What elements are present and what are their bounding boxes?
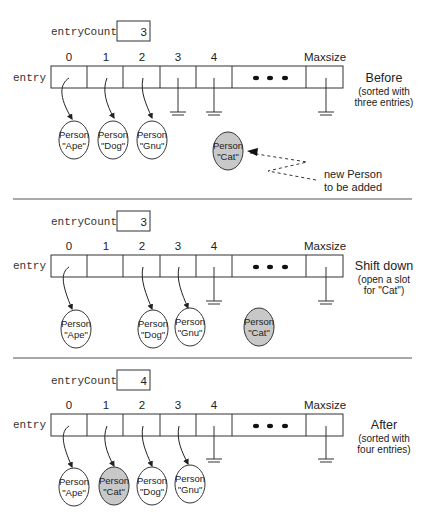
annotation-line1: new Person: [324, 168, 382, 180]
svg-text:Person: Person: [137, 129, 167, 140]
index-labels: 0 1 2 3 4 Maxsize: [66, 240, 346, 252]
svg-text:3: 3: [175, 240, 181, 252]
array-label: entry: [13, 72, 46, 84]
index-labels: 0 1 2 3 4 Maxsize: [66, 399, 346, 411]
svg-text:Person: Person: [59, 476, 89, 487]
maxsize-label: Maxsize: [304, 399, 346, 411]
person-node: Person "Gnu": [175, 465, 205, 503]
maxsize-label: Maxsize: [304, 240, 346, 252]
svg-text:"Dog": "Dog": [140, 486, 164, 497]
caption-line: (sorted with: [358, 433, 410, 444]
entry-count-label: entryCount: [51, 216, 117, 228]
index-label: 0: [66, 51, 72, 63]
person-node: Person "Gnu": [137, 121, 167, 159]
array-label: entry: [13, 260, 46, 272]
caption-line: (sorted with: [358, 86, 410, 97]
svg-text:Person: Person: [59, 129, 89, 140]
svg-text:"Dog": "Dog": [141, 329, 165, 340]
svg-text:2: 2: [139, 399, 145, 411]
caption-title: Before: [366, 71, 403, 85]
svg-text:"Ape": "Ape": [62, 487, 86, 498]
person-node: Person "Dog": [138, 310, 168, 348]
svg-text:Person: Person: [98, 129, 128, 140]
svg-text:0: 0: [66, 399, 72, 411]
section-before: entryCount 3 entry 0 1 2 3 4 Maxsize: [13, 21, 413, 193]
person-node: Person "Ape": [59, 121, 89, 159]
caption-line: four entries): [357, 444, 410, 455]
svg-text:4: 4: [211, 240, 218, 252]
array-cells: [51, 414, 343, 436]
entry-count-label: entryCount: [51, 375, 117, 387]
svg-text:"Gnu": "Gnu": [178, 327, 203, 338]
svg-text:Person: Person: [99, 475, 129, 486]
array-label: entry: [13, 419, 46, 431]
index-label: 2: [139, 51, 145, 63]
section-after: entryCount 4 entry 0 1 2 3 4 Maxsize: [13, 370, 411, 506]
new-person-node: Person "Cat": [99, 467, 129, 505]
svg-text:1: 1: [103, 240, 109, 252]
index-label: 1: [103, 51, 109, 63]
svg-text:3: 3: [175, 399, 181, 411]
svg-text:Person: Person: [244, 316, 274, 327]
svg-text:0: 0: [66, 240, 72, 252]
caption-title: Shift down: [355, 259, 413, 273]
caption-line: three entries): [355, 97, 414, 108]
svg-text:"Cat": "Cat": [217, 151, 239, 162]
svg-text:"Cat": "Cat": [103, 486, 125, 497]
entry-count-label: entryCount: [51, 26, 117, 38]
person-node: Person "Ape": [59, 468, 89, 506]
person-node: Person "Gnu": [175, 308, 205, 346]
annotation-line2: to be added: [324, 181, 382, 193]
section-shift-down: entryCount 3 entry 0 1 2 3 4 Maxsize: [13, 211, 413, 348]
array-cells: [51, 255, 343, 277]
entry-count-value: 4: [141, 375, 148, 387]
dashed-arrow-icon: [247, 148, 316, 180]
svg-text:"Dog": "Dog": [101, 140, 125, 151]
svg-text:4: 4: [211, 399, 218, 411]
person-node: Person "Ape": [61, 310, 91, 348]
svg-text:"Gnu": "Gnu": [140, 140, 165, 151]
entry-count-value: 3: [141, 26, 147, 38]
person-node: Person "Dog": [98, 121, 128, 159]
index-labels: 0 1 2 3 4 Maxsize: [66, 51, 346, 63]
svg-text:"Cat": "Cat": [248, 327, 270, 338]
index-label: 4: [211, 51, 218, 63]
svg-text:"Ape": "Ape": [64, 329, 88, 340]
svg-text:1: 1: [103, 399, 109, 411]
svg-text:Person: Person: [138, 318, 168, 329]
array-cells: [51, 66, 343, 88]
svg-text:"Ape": "Ape": [62, 140, 86, 151]
svg-text:"Gnu": "Gnu": [178, 484, 203, 495]
maxsize-label: Maxsize: [304, 51, 346, 63]
new-person-node: Person "Cat": [213, 132, 243, 170]
sorted-insert-diagram: entryCount 3 entry 0 1 2 3 4 Maxsize: [0, 0, 426, 524]
svg-text:Person: Person: [213, 140, 243, 151]
svg-text:2: 2: [139, 240, 145, 252]
svg-text:Person: Person: [175, 316, 205, 327]
svg-text:Person: Person: [137, 475, 167, 486]
entry-count-value: 3: [141, 216, 147, 228]
new-person-node: Person "Cat": [244, 308, 274, 346]
index-label: 3: [175, 51, 181, 63]
svg-text:Person: Person: [175, 473, 205, 484]
caption-line: (open a slot: [358, 274, 410, 285]
svg-text:Person: Person: [61, 318, 91, 329]
caption-title: After: [371, 418, 397, 432]
person-node: Person "Dog": [137, 467, 167, 505]
caption-line: for "Cat"): [364, 285, 404, 296]
